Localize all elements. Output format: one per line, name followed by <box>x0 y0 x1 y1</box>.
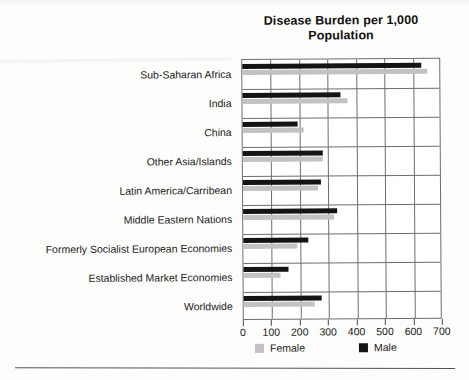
category-label: Formerly Socialist European Economies <box>46 242 233 255</box>
bar-group <box>243 175 440 205</box>
bar-male <box>242 92 340 98</box>
x-tick-label: 200 <box>291 326 309 338</box>
category-label: Middle Eastern Nations <box>124 213 233 226</box>
bar-male <box>243 179 321 184</box>
bar-group <box>243 262 440 292</box>
bar-female <box>243 185 318 190</box>
bar-female <box>242 69 427 75</box>
plot-area <box>241 58 442 320</box>
bar-female <box>243 128 304 133</box>
bar-male <box>243 150 323 155</box>
legend-label: Male <box>374 341 397 353</box>
legend-item-female: Female <box>255 342 305 354</box>
category-label: Other Asia/Islands <box>147 155 232 168</box>
bar-group <box>243 146 440 176</box>
x-tick-label: 400 <box>348 325 366 337</box>
x-tick-label: 300 <box>319 325 337 337</box>
bar-group <box>243 233 440 263</box>
bar-male <box>243 238 308 243</box>
bar-group <box>242 59 439 89</box>
bar-female <box>243 214 334 220</box>
legend-swatch-female <box>255 343 264 352</box>
bar-female <box>243 156 323 161</box>
bar-female <box>244 273 281 278</box>
bar-female <box>243 244 297 249</box>
bar-group <box>242 88 439 118</box>
bar-female <box>242 98 347 104</box>
bar-male <box>243 122 298 127</box>
x-tick-label: 700 <box>433 325 451 337</box>
category-axis-labels: Sub-Saharan AfricaIndiaChinaOther Asia/I… <box>0 59 239 321</box>
x-tick-label: 0 <box>240 326 246 338</box>
chart-legend: FemaleMale <box>243 341 443 358</box>
bar-male <box>243 208 337 214</box>
legend-label: Female <box>270 342 305 354</box>
category-label: Worldwide <box>184 300 233 312</box>
x-tick-label: 500 <box>376 325 394 337</box>
bar-group <box>243 117 440 147</box>
category-label: China <box>204 126 232 138</box>
x-tick-label: 600 <box>405 325 423 337</box>
category-label: India <box>209 97 232 109</box>
bar-group <box>244 291 441 321</box>
bar-series-group <box>242 59 441 319</box>
legend-item-male: Male <box>359 341 397 353</box>
bar-female <box>244 302 315 307</box>
chart-title: Disease Burden per 1,000 Population <box>243 13 439 44</box>
category-label: Sub-Saharan Africa <box>140 68 231 81</box>
legend-swatch-male <box>359 343 368 352</box>
bar-group <box>243 204 440 234</box>
category-label: Latin America/Carribean <box>119 184 232 197</box>
bar-male <box>244 295 322 300</box>
page-divider-rule <box>15 367 455 369</box>
bar-male <box>243 267 289 272</box>
category-label: Established Market Economies <box>88 271 232 284</box>
chart-page: Disease Burden per 1,000 Population Sub-… <box>0 0 469 380</box>
x-tick-label: 100 <box>262 326 280 338</box>
